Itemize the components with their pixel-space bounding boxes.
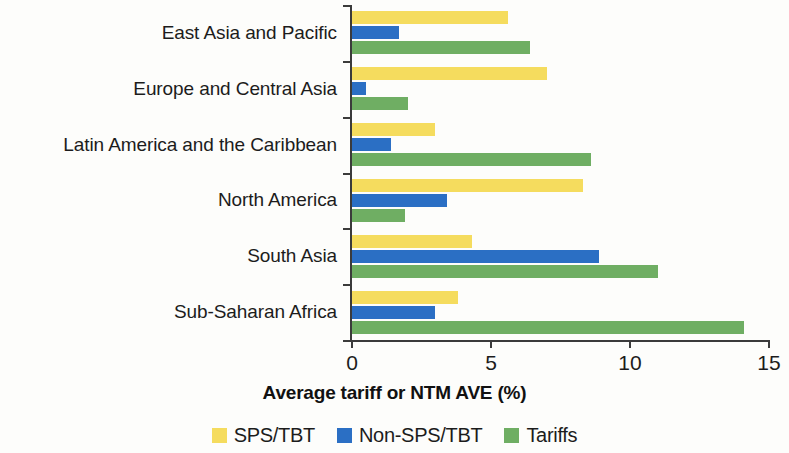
bar [352,306,435,319]
y-axis-tick [343,61,351,63]
bar [352,67,547,80]
y-axis-tick [343,340,351,342]
category-axis-labels: East Asia and PacificEurope and Central … [0,5,345,340]
bar [352,153,591,166]
x-axis-tick-label: 15 [739,351,789,375]
bar-group [352,11,770,54]
bar [352,291,458,304]
bar [352,250,599,263]
y-axis-tick [343,284,351,286]
bar-group [352,179,770,222]
bar [352,265,658,278]
legend-swatch-icon [337,428,352,443]
bar-group [352,123,770,166]
bar-group [352,67,770,110]
chart-legend: SPS/TBTNon-SPS/TBTTariffs [0,424,789,446]
plot-area: 051015 [351,5,769,340]
y-axis-tick [343,117,351,119]
legend-label: Non-SPS/TBT [359,424,482,446]
category-label: East Asia and Pacific [0,22,337,44]
x-axis-line [350,340,769,342]
y-axis-tick [343,228,351,230]
category-label: Europe and Central Asia [0,78,337,100]
bar [352,209,405,222]
y-axis-tick [343,173,351,175]
bar [352,321,744,334]
legend-swatch-icon [212,428,227,443]
bar-chart: East Asia and PacificEurope and Central … [0,0,789,453]
x-axis-tick-label: 5 [461,351,521,375]
bar [352,123,435,136]
legend-label: SPS/TBT [234,424,315,446]
x-axis-tick [629,340,631,348]
bar [352,97,408,110]
category-label: South Asia [0,245,337,267]
bar-group [352,291,770,334]
bar [352,138,391,151]
bar [352,82,366,95]
bar [352,11,508,24]
x-axis-title: Average tariff or NTM AVE (%) [0,382,789,404]
x-axis-tick-label: 10 [600,351,660,375]
x-axis-tick-label: 0 [322,351,382,375]
category-label: Latin America and the Caribbean [0,134,337,156]
bar [352,26,399,39]
category-label: North America [0,189,337,211]
legend-label: Tariffs [526,424,577,446]
bar-group [352,235,770,278]
x-axis-tick [351,340,353,348]
legend-swatch-icon [504,428,519,443]
legend-item: Non-SPS/TBT [337,424,482,446]
x-axis-tick [768,340,770,348]
bar [352,235,472,248]
bar [352,41,530,54]
category-label: Sub-Saharan Africa [0,301,337,323]
x-axis-tick [490,340,492,348]
bar [352,179,583,192]
legend-item: SPS/TBT [212,424,315,446]
legend-item: Tariffs [504,424,577,446]
y-axis-tick [343,5,351,7]
bar [352,194,447,207]
